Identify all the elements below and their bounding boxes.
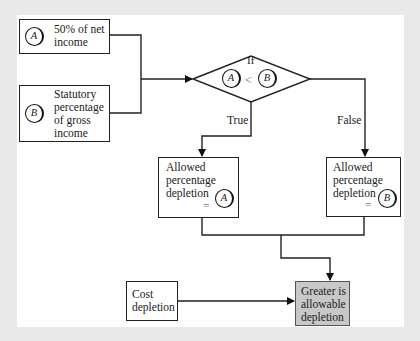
- input-box-a: A 50% of net income: [19, 19, 110, 54]
- result-symbol-a-icon: A: [215, 189, 234, 208]
- decision-symbol-a-icon: A: [222, 69, 241, 88]
- final-line1: Greater is: [301, 285, 346, 298]
- symbol-b-icon: B: [25, 104, 44, 123]
- symbol-a-icon: A: [25, 27, 44, 46]
- final-result-box: Greater is allowable depletion: [295, 281, 350, 326]
- input-a-line2: income: [54, 36, 88, 49]
- result-box-b: Allowed percentage depletion = B: [326, 157, 401, 217]
- input-box-b: B Statutory percentage of gross income: [19, 85, 110, 142]
- final-line3: depletion: [301, 311, 344, 324]
- decision-operator: <: [245, 73, 252, 88]
- result-a-line3: depletion: [166, 187, 209, 200]
- input-a-line1: 50% of net: [54, 23, 104, 36]
- result-symbol-b-icon: B: [378, 189, 397, 208]
- input-b-line3: of gross: [54, 114, 91, 127]
- final-line2: allowable: [301, 298, 346, 311]
- cost-depletion-box: Cost depletion: [126, 281, 178, 321]
- true-branch-label: True: [227, 114, 248, 126]
- input-b-line2: percentage: [54, 101, 104, 114]
- decision-if-label: If: [247, 54, 254, 66]
- result-a-equals: =: [203, 200, 210, 213]
- result-box-a: Allowed percentage depletion = A: [158, 157, 239, 218]
- cost-line2: depletion: [132, 301, 175, 314]
- cost-line1: Cost: [132, 288, 153, 301]
- input-b-line4: income: [54, 127, 88, 140]
- input-b-line1: Statutory: [54, 88, 96, 101]
- result-b-line2: percentage: [333, 174, 383, 187]
- result-a-line1: Allowed: [166, 161, 206, 174]
- result-b-line1: Allowed: [333, 161, 373, 174]
- decision-symbol-b-icon: B: [258, 69, 277, 88]
- false-branch-label: False: [337, 114, 361, 126]
- result-b-line3: depletion: [333, 187, 376, 200]
- result-b-equals: =: [365, 199, 372, 212]
- result-a-line2: percentage: [166, 174, 216, 187]
